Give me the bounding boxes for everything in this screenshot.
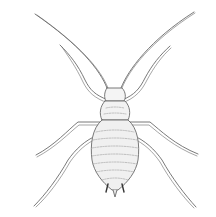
thorax — [100, 101, 129, 120]
illustration-canvas: Black-and-white stippled line illustrati… — [0, 0, 216, 217]
cauda — [113, 190, 117, 197]
head — [105, 88, 126, 101]
aphid-illustration — [0, 0, 216, 217]
antennae — [35, 12, 195, 88]
